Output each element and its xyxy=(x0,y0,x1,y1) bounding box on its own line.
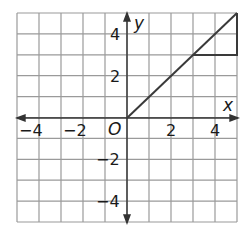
x-axis-label: x xyxy=(222,95,234,115)
y-tick-2: 2 xyxy=(110,67,120,86)
y-axis-up-arrow-icon xyxy=(124,13,130,21)
x-tick-2: 2 xyxy=(166,121,176,140)
y-tick-neg2: −2 xyxy=(96,150,120,169)
y-axis-label: y xyxy=(133,13,145,33)
y-tick-neg4: −4 xyxy=(96,192,120,211)
coordinate-plane: x y O −4 −2 2 4 4 2 −2 −4 xyxy=(0,0,250,234)
origin-label: O xyxy=(108,119,121,139)
y-tick-4: 4 xyxy=(110,25,120,44)
x-tick-neg2: −2 xyxy=(63,121,87,140)
x-tick-4: 4 xyxy=(210,121,220,140)
x-tick-neg4: −4 xyxy=(19,121,43,140)
